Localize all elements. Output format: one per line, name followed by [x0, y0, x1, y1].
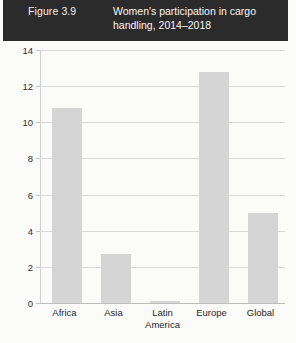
- bar-chart: 02468101214 AfricaAsiaLatin AmericaEurop…: [0, 41, 296, 343]
- y-axis-tick-label: 14: [5, 45, 33, 56]
- y-axis-tick-label: 8: [5, 153, 33, 164]
- y-axis-tick: [36, 195, 40, 196]
- y-axis-tick-label: 12: [5, 81, 33, 92]
- y-axis-tick: [36, 231, 40, 232]
- y-axis-tick: [36, 86, 40, 87]
- y-axis-tick-label: 2: [5, 261, 33, 272]
- y-axis-tick-label: 6: [5, 189, 33, 200]
- y-axis-tick: [36, 303, 40, 304]
- y-axis-tick: [36, 50, 40, 51]
- bar-africa[interactable]: [52, 108, 82, 303]
- figure-title: Women's participation in cargo handling,…: [113, 5, 285, 32]
- y-axis-tick-label: 10: [5, 117, 33, 128]
- gridline: [40, 50, 285, 51]
- bar-latin-america[interactable]: [150, 301, 180, 303]
- x-axis-labels: AfricaAsiaLatin AmericaEuropeGlobal: [40, 307, 285, 343]
- gridline: [40, 86, 285, 87]
- bar-asia[interactable]: [101, 254, 131, 303]
- plot-area: [40, 50, 285, 303]
- y-axis-tick-label: 0: [5, 298, 33, 309]
- axis-baseline: [40, 303, 285, 304]
- y-axis-labels: 02468101214: [0, 50, 33, 303]
- y-axis-tick: [36, 122, 40, 123]
- bar-global[interactable]: [248, 213, 278, 303]
- x-axis-label-global: Global: [232, 307, 289, 319]
- figure-number-label: Figure 3.9: [28, 5, 76, 17]
- figure-header-band: Figure 3.9 Women's participation in carg…: [3, 0, 288, 41]
- bar-europe[interactable]: [199, 72, 229, 303]
- y-axis-tick: [36, 267, 40, 268]
- y-axis-tick: [36, 158, 40, 159]
- y-axis-tick-label: 4: [5, 225, 33, 236]
